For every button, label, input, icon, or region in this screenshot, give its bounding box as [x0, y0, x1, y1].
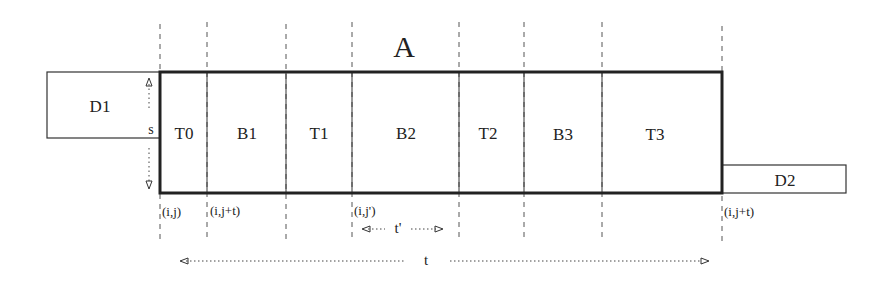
segment-b1: B1 [237, 125, 257, 142]
d2-label: D2 [775, 172, 796, 189]
arrow-right-icon [701, 258, 709, 264]
segment-b3: B3 [553, 126, 573, 143]
diagram-title: A [393, 32, 415, 62]
segment-t0: T0 [175, 125, 194, 142]
coord-i-j-plus-t-end: (i,j+t) [724, 205, 754, 218]
height-label: s [148, 123, 153, 137]
segment-t3: T3 [646, 126, 665, 143]
segment-b2: B2 [396, 125, 416, 142]
d1-label: D1 [90, 98, 111, 115]
coord-i-j: (i,j) [162, 205, 181, 218]
arrow-down-icon [146, 181, 152, 189]
t-prime-label: t' [395, 221, 402, 236]
segment-t1: T1 [310, 125, 329, 142]
t-label: t [424, 253, 428, 268]
coord-i-j-prime: (i,j') [354, 204, 375, 217]
arrow-right-icon [435, 226, 443, 232]
segment-t2: T2 [479, 125, 498, 142]
diagram-canvas [0, 0, 888, 285]
coord-i-j-plus-t: (i,j+t) [210, 204, 240, 217]
